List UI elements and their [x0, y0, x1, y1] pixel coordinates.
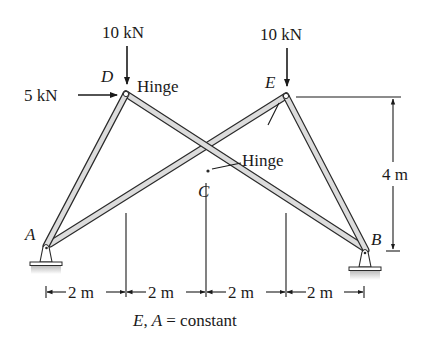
vertical-dimension-label: 4 m	[382, 165, 408, 184]
dimension-label-3: 2 m	[228, 283, 254, 302]
material-note: E,A = constant	[132, 311, 237, 330]
load-label-D-horizontal: 5 kN	[24, 86, 58, 105]
node-label-C: C	[198, 182, 210, 201]
node-label-B: B	[371, 230, 382, 249]
frame-diagram: 10 kN 10 kN 5 kN D E C A B Hinge Hinge 4…	[0, 0, 433, 345]
hinge-C-pin	[206, 169, 209, 172]
hinge-label-D: Hinge	[137, 77, 179, 96]
note-A: A	[151, 311, 163, 330]
hinge-D-pin	[123, 91, 128, 96]
load-label-D-vertical: 10 kN	[102, 23, 144, 42]
dimension-label-1: 2 m	[68, 283, 94, 302]
node-label-A: A	[24, 225, 36, 244]
dimension-label-4: 2 m	[307, 283, 333, 302]
pin-support-B	[349, 250, 381, 281]
note-comma: ,	[143, 311, 147, 330]
hinge-E-pin	[283, 93, 288, 98]
dimension-label-2: 2 m	[148, 283, 174, 302]
note-rest: = constant	[162, 311, 237, 330]
hinge-label-C-E: Hinge	[242, 151, 284, 170]
load-label-E-vertical: 10 kN	[260, 25, 302, 44]
node-label-E: E	[264, 73, 276, 92]
pin-support-A	[30, 245, 62, 275]
node-label-D: D	[100, 67, 114, 86]
note-E: E	[132, 311, 144, 330]
